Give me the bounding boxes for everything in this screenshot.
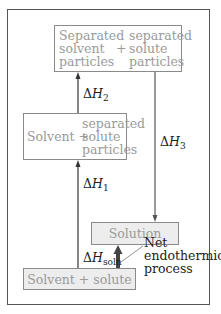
top-right-line-3: particles [129,55,192,68]
arrowhead-dh3-icon [153,215,158,222]
middle-right-line-3: particles [82,143,145,156]
box-separated-particles: Separated solvent particles + separated … [54,25,182,72]
box-solvent-solute: Solvent + solute [23,268,136,290]
label-delta-h3: ΔH3 [160,134,186,151]
arrowhead-dh1-icon [76,160,81,167]
arrowhead-dh2-icon [76,72,81,79]
top-left-line-3: particles [59,55,124,68]
label-delta-hsoln: ΔHsoln [83,250,122,267]
annotation-net-endothermic: Net endothermic process [144,236,221,275]
annotation-leader-line [121,246,143,262]
top-plus: + [116,42,126,55]
label-delta-h2: ΔH2 [83,86,109,103]
label-delta-h1: ΔH1 [83,176,109,193]
middle-left-text: Solvent + [27,130,89,143]
box-solvent-separated-solute: Solvent + separated solute particles [23,113,127,160]
bottom-label: Solvent + solute [24,273,135,286]
